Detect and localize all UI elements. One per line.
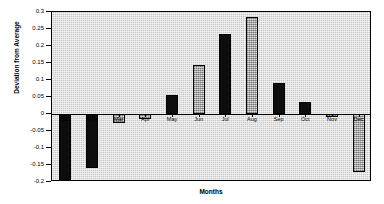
y-axis-tick-label: 0.25 — [32, 25, 44, 31]
y-axis-tick-label: -0.1 — [34, 144, 44, 150]
plot-area: JanFebMarAprMayJunJulAugSepOctNovDec — [51, 11, 371, 181]
bar-jan — [59, 114, 71, 180]
bar-may — [166, 95, 178, 114]
x-axis-label-mar: Mar — [107, 116, 131, 123]
bar-oct — [299, 102, 311, 114]
y-axis-tick-label: -0.05 — [30, 127, 44, 133]
x-axis-label-oct: Oct — [293, 116, 317, 123]
x-axis-label-nov: Nov — [320, 116, 344, 123]
y-axis-tick-label: 0.1 — [36, 76, 44, 82]
bar-sep — [273, 83, 285, 114]
x-axis-label-jul: Jul — [213, 116, 237, 123]
y-axis-tick-label: -0.2 — [34, 178, 44, 184]
x-axis-label-apr: Apr — [133, 116, 157, 123]
x-axis-title: Months — [51, 188, 371, 195]
y-axis-tick-label: 0.3 — [36, 8, 44, 14]
x-axis-label-may: May — [160, 116, 184, 123]
x-axis-label-aug: Aug — [240, 116, 264, 123]
x-axis-label-sep: Sep — [267, 116, 291, 123]
y-axis-tick-label: 0 — [41, 110, 44, 116]
y-axis-tick-label: 0.2 — [36, 42, 44, 48]
y-axis-ticks: 0.30.250.20.150.10.050-0.05-0.1-0.15-0.2 — [0, 0, 52, 204]
zero-baseline — [52, 114, 370, 115]
bar-jul — [219, 34, 231, 114]
y-axis-tick-label: 0.05 — [32, 93, 44, 99]
x-axis-label-jan: Jan — [53, 116, 77, 123]
x-axis-label-feb: Feb — [80, 116, 104, 123]
bar-chart: Deviation from Average 0.30.250.20.150.1… — [0, 0, 384, 204]
plot-background-texture — [52, 12, 370, 180]
bar-jun — [193, 65, 205, 114]
y-axis-tick-label: -0.15 — [30, 161, 44, 167]
y-axis-tick-label: 0.15 — [32, 59, 44, 65]
y-axis-tick-mark — [46, 181, 51, 182]
x-axis-label-dec: Dec — [347, 116, 371, 123]
bar-aug — [246, 17, 258, 114]
x-axis-label-jun: Jun — [187, 116, 211, 123]
